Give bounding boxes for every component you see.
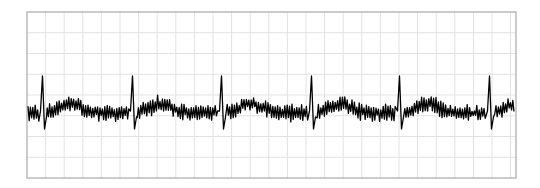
ecg-chart bbox=[0, 0, 540, 188]
chart-grid bbox=[27, 12, 516, 178]
